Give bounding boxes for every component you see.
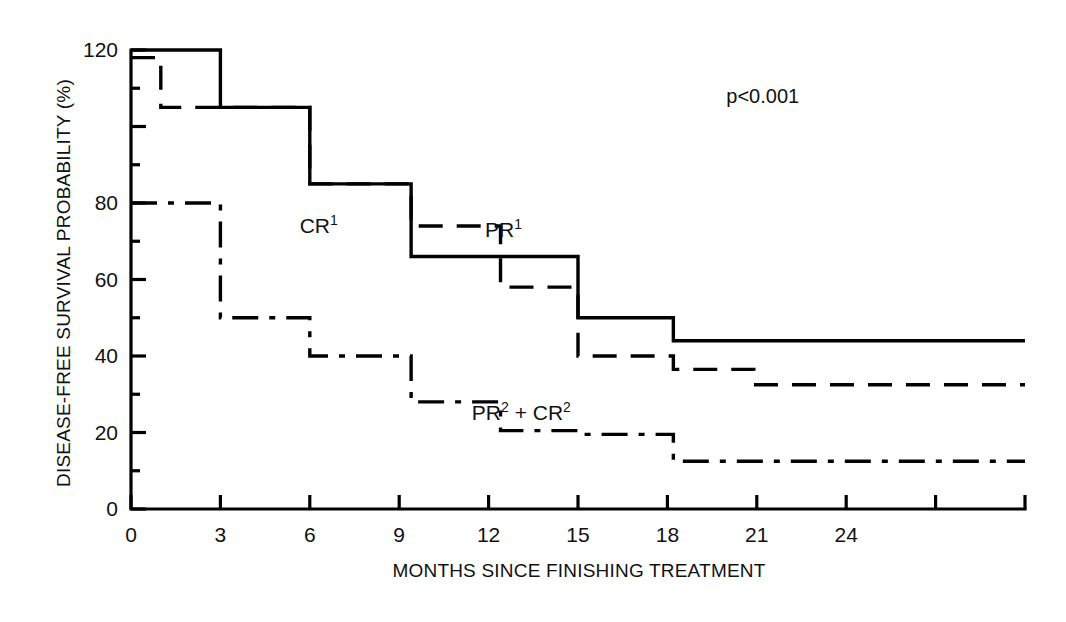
figure-container: DISEASE-FREE SURVIVAL PROBABILITY (%) MO… xyxy=(0,0,1066,622)
curve-pr2+cr2 xyxy=(131,203,1025,461)
curve-label-pr2-cr2: PR2 + CR2 xyxy=(472,401,571,425)
y-tick-label-120: 120 xyxy=(60,38,118,62)
survival-curves xyxy=(131,50,1025,461)
x-tick-label-9: 9 xyxy=(393,523,405,547)
y-tick-label-20: 20 xyxy=(60,421,118,445)
x-axis-title: MONTHS SINCE FINISHING TREATMENT xyxy=(133,560,1025,582)
x-tick-label-15: 15 xyxy=(566,523,589,547)
y-tick-label-0: 0 xyxy=(60,497,118,521)
y-tick-label-40: 40 xyxy=(60,344,118,368)
curve-label-cr2-superscript: 2 xyxy=(563,399,571,415)
x-tick-label-3: 3 xyxy=(215,523,227,547)
curve-label-pr2-superscript: 2 xyxy=(501,399,509,415)
x-tick-label-21: 21 xyxy=(745,523,768,547)
curve-label-cr1: CR1 xyxy=(300,214,338,238)
curve-label-cr1-text: CR xyxy=(300,214,330,237)
x-tick-label-6: 6 xyxy=(304,523,316,547)
p-value-annotation: p<0.001 xyxy=(726,84,799,107)
curve-label-pr1: PR1 xyxy=(485,218,522,242)
curve-label-cr1-superscript: 1 xyxy=(330,212,338,228)
x-tick-label-0: 0 xyxy=(125,523,137,547)
curve-label-plus-cr: + CR xyxy=(509,401,563,424)
x-tick-label-18: 18 xyxy=(656,523,679,547)
curve-label-pr2-text: PR xyxy=(472,401,501,424)
y-tick-label-60: 60 xyxy=(60,268,118,292)
curve-label-pr1-superscript: 1 xyxy=(514,216,522,232)
x-tick-label-24: 24 xyxy=(835,523,858,547)
survival-chart-plot xyxy=(0,0,1066,622)
y-tick-label-80: 80 xyxy=(60,191,118,215)
x-tick-label-12: 12 xyxy=(477,523,500,547)
curve-label-pr1-text: PR xyxy=(485,218,514,241)
